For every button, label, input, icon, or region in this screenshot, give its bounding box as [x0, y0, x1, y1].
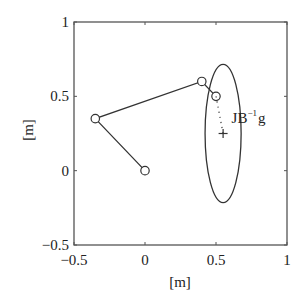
y-tick-labels: −0.500.51 [42, 14, 69, 253]
x-tick-label: 0.5 [207, 252, 226, 268]
annotation-suffix: g [258, 110, 266, 126]
annotation-base: JB [232, 110, 248, 126]
x-tick-label: 0 [141, 252, 149, 268]
ticks [74, 22, 287, 245]
y-tick-label: −0.5 [42, 237, 69, 253]
y-tick-label: 1 [62, 14, 70, 30]
joint-marker [198, 77, 206, 85]
arm-links-line [95, 81, 216, 170]
x-tick-labels: −0.500.51 [60, 252, 290, 268]
x-tick-label: 1 [283, 252, 291, 268]
x-axis-label: [m] [169, 274, 191, 290]
annotations: JB−1g [232, 108, 266, 126]
y-tick-label: 0 [62, 163, 70, 179]
joint-marker [141, 166, 149, 174]
y-axis-label: [m] [20, 119, 36, 141]
axes-box [74, 22, 287, 245]
plus-marker [219, 129, 228, 138]
x-tick-label: −0.5 [60, 252, 87, 268]
data-series [91, 77, 228, 175]
dotted-segment [216, 96, 223, 133]
y-tick-label: 0.5 [50, 88, 69, 104]
plot-frame [74, 22, 287, 245]
figure: −0.500.51 −0.500.51 JB−1g [m] [m] [0, 0, 303, 304]
annotation-label: JB−1g [232, 108, 266, 126]
annotation-superscript: −1 [247, 108, 257, 118]
joint-marker [91, 114, 99, 122]
